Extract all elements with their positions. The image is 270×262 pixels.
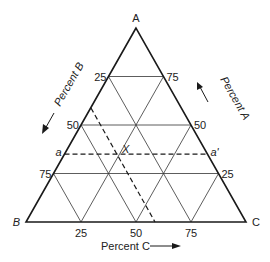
- percent-b-arrow-icon: [42, 124, 49, 134]
- line-a-start-label: a: [55, 146, 61, 158]
- left-tick-label: 25: [94, 71, 106, 83]
- percent-a-axis-title: Percent A: [197, 74, 253, 121]
- right-tick-label: 75: [167, 71, 179, 83]
- percent-c-arrow-icon: [172, 243, 181, 249]
- line-a-end-label: a': [211, 146, 220, 158]
- right-tick-label: 25: [222, 168, 234, 180]
- percent-c-axis-title: Percent C: [101, 240, 181, 252]
- percent-c-label: Percent C: [101, 240, 150, 252]
- bottom-tick-label: 50: [130, 227, 142, 239]
- right-tick-label: 50: [194, 119, 206, 131]
- percent-b-axis-title: Percent B: [42, 60, 86, 134]
- bottom-tick-label: 75: [185, 227, 197, 239]
- percent-a-label: Percent A: [218, 74, 252, 121]
- vertex-c-label: C: [252, 216, 260, 228]
- left-tick-label: 75: [39, 168, 51, 180]
- grid-line-constant-c: [191, 174, 219, 223]
- left-tick-label: 50: [67, 119, 79, 131]
- percent-a-arrow-icon: [197, 82, 203, 90]
- grid-line-constant-b: [54, 174, 82, 223]
- point-x-label: X: [121, 143, 130, 155]
- grid-line-constant-b: [109, 77, 192, 223]
- percent-a-arrow-shaft: [200, 87, 208, 102]
- vertex-a-label: A: [132, 12, 140, 24]
- vertex-b-label: B: [13, 216, 20, 228]
- percent-b-label: Percent B: [51, 60, 86, 108]
- bottom-tick-label: 25: [75, 227, 87, 239]
- grid-lines: [54, 77, 219, 223]
- ternary-diagram: A B C 25 50 75 75 50 25 25 50 75 X a a' …: [0, 0, 270, 262]
